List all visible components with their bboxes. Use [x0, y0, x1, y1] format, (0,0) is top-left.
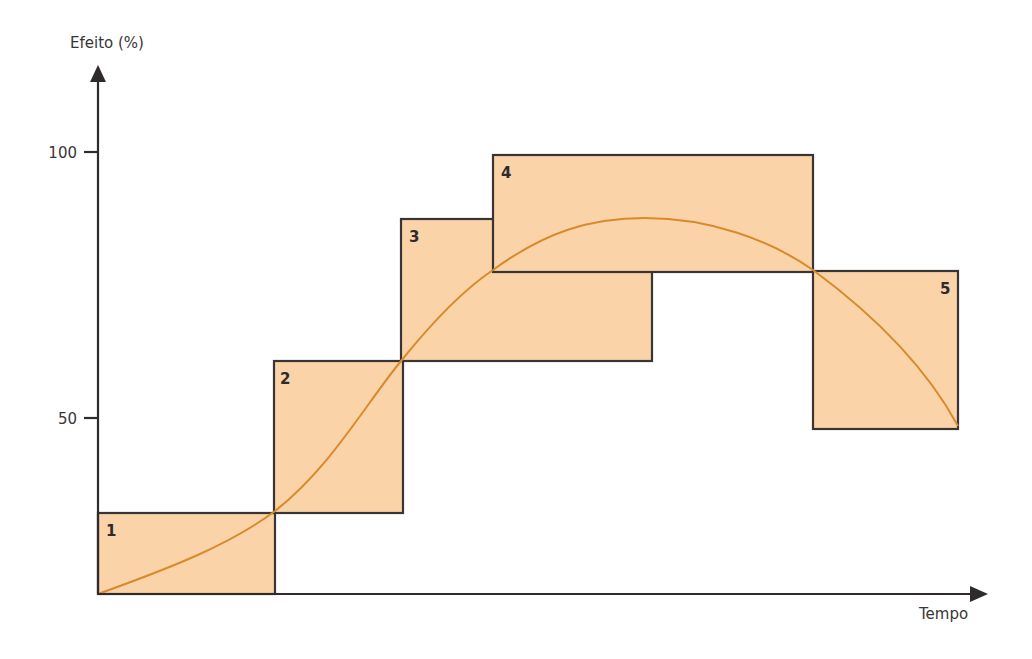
- effect-diagram: Efeito (%) Tempo 100 50 1 2 3 4 5: [0, 0, 1032, 659]
- x-axis-label: Tempo: [918, 605, 968, 623]
- stage-box-4: [493, 155, 813, 272]
- x-axis-arrow-icon: [970, 586, 988, 602]
- y-axis-label: Efeito (%): [70, 34, 144, 52]
- stage-label-2: 2: [280, 370, 290, 388]
- stage-box-5: [813, 271, 958, 429]
- stage-box-1: [98, 513, 275, 594]
- y-axis-arrow-icon: [90, 65, 106, 82]
- stage-label-4: 4: [501, 164, 511, 182]
- stage-boxes: [98, 155, 958, 594]
- stage-label-3: 3: [409, 228, 419, 246]
- stage-label-1: 1: [106, 522, 116, 540]
- y-tick-label-50: 50: [58, 410, 77, 428]
- y-tick-label-100: 100: [48, 144, 77, 162]
- stage-label-5: 5: [940, 280, 950, 298]
